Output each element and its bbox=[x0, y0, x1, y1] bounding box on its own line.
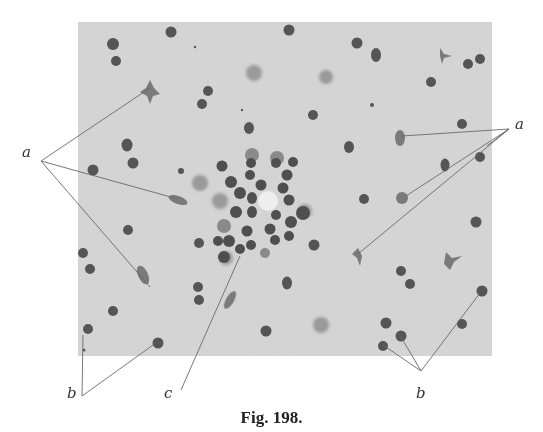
label-b-left: b bbox=[67, 386, 77, 401]
figure-caption: Fig. 198. bbox=[0, 408, 543, 428]
histology-figure bbox=[0, 0, 543, 432]
label-b-right: b bbox=[416, 386, 426, 401]
label-a-right: a bbox=[515, 117, 524, 132]
label-c: c bbox=[164, 386, 172, 401]
micrograph bbox=[78, 22, 492, 356]
central-vessel bbox=[258, 191, 278, 211]
label-a-left: a bbox=[22, 145, 31, 160]
